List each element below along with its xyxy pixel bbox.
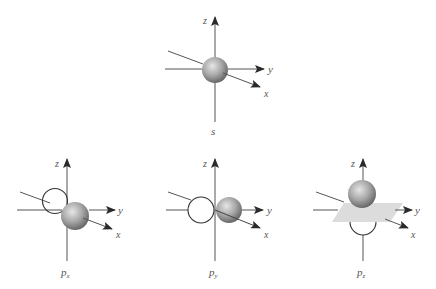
z-label: z <box>54 158 59 169</box>
open-lobe <box>188 197 214 223</box>
orbital-diagram: z y x s z y x px z y x py <box>0 0 436 289</box>
y-label: y <box>414 204 420 216</box>
px-orbital-diagram: z y x px <box>17 158 123 280</box>
z-label: z <box>202 158 207 169</box>
orbital-label-pz: pz <box>356 266 366 280</box>
x-label: x <box>410 229 416 240</box>
pz-orbital-diagram: z y x pz <box>313 158 420 280</box>
py-orbital-diagram: z y x py <box>166 158 272 280</box>
open-lobe <box>350 222 376 235</box>
x-axis-back <box>316 192 344 202</box>
s-orbital-diagram: z y x s <box>165 15 273 137</box>
x-label: x <box>263 229 269 240</box>
x-axis-front <box>385 219 408 228</box>
x-axis-front <box>223 73 260 87</box>
x-label: x <box>115 229 121 240</box>
x-axis-front <box>83 218 112 229</box>
filled-lobe <box>348 180 376 208</box>
s-sphere <box>202 57 228 83</box>
orbital-label-py: py <box>208 266 219 280</box>
z-label: z <box>350 158 355 169</box>
filled-lobe <box>61 202 89 230</box>
x-label: x <box>263 88 269 99</box>
x-axis-back <box>168 51 203 64</box>
y-label: y <box>267 63 273 75</box>
orbital-label-px: px <box>60 266 71 280</box>
y-label: y <box>117 204 123 216</box>
orbital-label-s: s <box>211 125 215 137</box>
z-label: z <box>202 15 207 26</box>
x-axis-back <box>168 192 191 200</box>
y-label: y <box>266 204 272 216</box>
